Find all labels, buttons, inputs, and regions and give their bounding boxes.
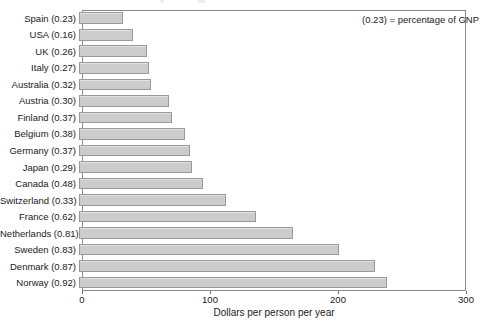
- bar-row: Norway (0.92): [0, 274, 487, 291]
- bar-row: USA (0.16): [0, 27, 487, 44]
- bar-row-label: Spain (0.23): [0, 13, 79, 24]
- bar-row: Canada (0.48): [0, 175, 487, 192]
- bar-cell: [79, 10, 487, 27]
- bar-row-label: Austria (0.30): [0, 95, 79, 106]
- x-tick-label: 300: [458, 294, 474, 305]
- bar-row-label: Japan (0.29): [0, 162, 79, 173]
- bar: [79, 112, 172, 124]
- bar-row: Spain (0.23): [0, 10, 487, 27]
- bar-row-label: Italy (0.27): [0, 62, 79, 73]
- bar-cell: [79, 274, 487, 291]
- bar-row: Netherlands (0.81): [0, 225, 487, 242]
- x-axis-title: Dollars per person per year: [82, 307, 466, 318]
- bar-cell: [79, 60, 487, 77]
- bar-cell: [79, 27, 487, 44]
- bar-cell: [79, 225, 487, 242]
- bar-row: Germany (0.37): [0, 142, 487, 159]
- bar-cell: [79, 93, 487, 110]
- bar: [79, 12, 123, 24]
- bar: [79, 244, 339, 256]
- x-tick-label: 200: [330, 294, 346, 305]
- bar-row-label: Sweden (0.83): [0, 244, 79, 255]
- bar-row: Belgium (0.38): [0, 126, 487, 143]
- bar-cell: [79, 76, 487, 93]
- bar-row: Australia (0.32): [0, 76, 487, 93]
- bar: [79, 211, 256, 223]
- bar-cell: [79, 175, 487, 192]
- bar: [79, 194, 226, 206]
- bar-row-label: Australia (0.32): [0, 79, 79, 90]
- bar-row-label: Germany (0.37): [0, 145, 79, 156]
- bar-row: Japan (0.29): [0, 159, 487, 176]
- bar-cell: [79, 109, 487, 126]
- bar: [79, 95, 169, 107]
- bar-cell: [79, 208, 487, 225]
- bar-row-label: UK (0.26): [0, 46, 79, 57]
- bar-row-label: Finland (0.37): [0, 112, 79, 123]
- bar-row: Finland (0.37): [0, 109, 487, 126]
- x-tick-label: 100: [202, 294, 218, 305]
- bar-row-label: Norway (0.92): [0, 277, 79, 288]
- bar: [79, 227, 293, 239]
- bar-row: Switzerland (0.33): [0, 192, 487, 209]
- bar-row: Austria (0.30): [0, 93, 487, 110]
- bar: [79, 29, 133, 41]
- bar: [79, 145, 190, 157]
- bar-row-label: Canada (0.48): [0, 178, 79, 189]
- bar-row-label: France (0.62): [0, 211, 79, 222]
- bar-row: Italy (0.27): [0, 60, 487, 77]
- bar-cell: [79, 126, 487, 143]
- bar: [79, 277, 387, 289]
- bar-rows: Spain (0.23)USA (0.16)UK (0.26)Italy (0.…: [0, 10, 487, 291]
- aid-per-person-bar-chart: (0.23) = percentage of GNP Spain (0.23)U…: [0, 0, 487, 328]
- page-scan-artifact: [150, 0, 270, 3]
- bar-row-label: Belgium (0.38): [0, 128, 79, 139]
- x-tick-label: 0: [79, 294, 84, 305]
- bar-cell: [79, 142, 487, 159]
- bar: [79, 260, 375, 272]
- bar-cell: [79, 192, 487, 209]
- bar: [79, 62, 149, 74]
- bar-row: UK (0.26): [0, 43, 487, 60]
- bar-row: Denmark (0.87): [0, 258, 487, 275]
- bar-row: Sweden (0.83): [0, 241, 487, 258]
- bar-row-label: Netherlands (0.81): [0, 228, 79, 239]
- x-axis: 0100200300: [82, 291, 466, 305]
- bar-row-label: USA (0.16): [0, 29, 79, 40]
- bar-row-label: Switzerland (0.33): [0, 195, 79, 206]
- bar: [79, 79, 151, 91]
- bar-row: France (0.62): [0, 208, 487, 225]
- bar: [79, 128, 185, 140]
- bar-cell: [79, 258, 487, 275]
- bar: [79, 161, 192, 173]
- bar-cell: [79, 43, 487, 60]
- bar: [79, 45, 147, 57]
- bar-row-label: Denmark (0.87): [0, 261, 79, 272]
- bar: [79, 178, 203, 190]
- bar-cell: [79, 241, 487, 258]
- bar-cell: [79, 159, 487, 176]
